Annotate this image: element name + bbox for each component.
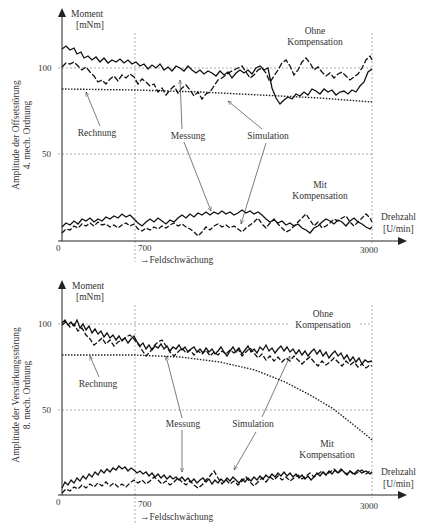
arrow-simulation-bottom <box>241 143 266 224</box>
x-axis-arrow-icon <box>398 237 407 245</box>
arrow-simulation-top <box>228 101 262 129</box>
x-axis-title: Drehzahl <box>381 212 416 222</box>
y-tick-50: 50 <box>42 149 52 159</box>
series-rechnung <box>62 355 372 440</box>
series-simulation-mit <box>62 469 372 493</box>
chart-offset-disturbance: 100 50 0 700 3000 Moment [mNm] Drehzahl … <box>11 8 416 265</box>
x-tick-700: 700 <box>138 243 152 253</box>
y-axis-arrow-icon <box>58 280 66 289</box>
y-label-line1: Amplitude der Offsetstörung <box>11 80 21 190</box>
x-tick-0: 0 <box>56 497 61 507</box>
x-tick-3000: 3000 <box>360 245 379 255</box>
x-axis-unit: [U/min] <box>383 479 414 489</box>
series-simulation-mit <box>62 214 372 236</box>
x-tick-700: 700 <box>138 499 152 509</box>
arrow-rechnung <box>90 356 99 377</box>
arrow-simulation-top <box>262 356 290 417</box>
y-label-line1: Amplitude der Verstärkungsstörung <box>11 327 21 463</box>
series-rechnung <box>62 89 372 102</box>
annotation-mit: Mit <box>320 439 334 449</box>
y-tick-100: 100 <box>38 319 52 329</box>
y-tick-50: 50 <box>42 405 52 415</box>
series-messung-ohne <box>62 46 372 104</box>
arrow-rechnung <box>86 92 100 126</box>
annotation-ohne: Ohne <box>313 309 334 319</box>
arrow-messung-top <box>180 80 182 129</box>
chart-figure: 100 50 0 700 3000 Moment [mNm] Drehzahl … <box>0 0 427 532</box>
x-tick-3000: 3000 <box>360 501 379 511</box>
x-tick-0: 0 <box>56 243 61 253</box>
annotation-mit: Mit <box>313 180 327 190</box>
annotation-kompensation-mit: Kompensation <box>292 191 348 201</box>
y-axis-title: Moment <box>72 281 105 291</box>
y-label-line2: 4. mech. Ordnung <box>22 100 32 169</box>
field-weakening-label: →Feldschwächung <box>140 512 214 522</box>
annotation-simulation: Simulation <box>232 419 274 429</box>
annotation-ohne: Ohne <box>305 26 326 36</box>
annotation-messung: Messung <box>171 131 206 141</box>
arrow-messung-top <box>166 356 182 418</box>
y-tick-100: 100 <box>38 63 52 73</box>
annotation-kompensation-ohne: Kompensation <box>287 37 343 47</box>
x-axis-arrow-icon <box>398 491 407 499</box>
field-weakening-label: →Feldschwächung <box>140 255 214 265</box>
arrow-messung-bottom <box>184 142 211 211</box>
x-axis-title: Drehzahl <box>381 467 416 477</box>
y-axis-title: Moment <box>71 9 104 19</box>
chart-gain-disturbance: 100 50 0 700 3000 Moment [mNm] Drehzahl … <box>11 280 416 525</box>
series-messung-mit <box>62 210 372 233</box>
annotation-rechnung: Rechnung <box>79 379 118 389</box>
annotation-kompensation-ohne: Kompensation <box>295 320 351 330</box>
arrow-simulation-bottom <box>234 432 256 470</box>
y-axis-unit: [mNm] <box>76 20 104 30</box>
x-axis-unit: [U/min] <box>383 224 414 234</box>
y-axis-arrow-icon <box>58 8 66 17</box>
y-axis-unit: [mNm] <box>76 292 104 302</box>
annotation-messung: Messung <box>166 419 201 429</box>
y-label-line2: 8. mech. Ordnung <box>22 360 32 429</box>
annotation-kompensation-mit: Kompensation <box>299 450 355 460</box>
annotation-simulation: Simulation <box>247 131 289 141</box>
annotation-rechnung: Rechnung <box>78 128 117 138</box>
